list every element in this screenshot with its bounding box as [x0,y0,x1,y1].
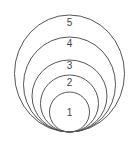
circle-label-2: 2 [67,77,73,88]
circle-label-3: 3 [67,60,73,71]
circle-label-1: 1 [67,107,73,118]
circle-label-5: 5 [67,17,73,28]
circle-label-4: 4 [67,38,73,49]
nested-circles-diagram: 54321 [0,0,137,150]
